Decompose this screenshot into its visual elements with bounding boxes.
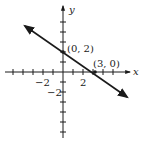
point-label-0-2: (0, 2) bbox=[67, 43, 94, 54]
point-label-3-0: (3, 0) bbox=[93, 58, 120, 69]
x-axis: x −2 2 bbox=[5, 66, 139, 88]
point-0-2 bbox=[61, 50, 65, 54]
point-3-0 bbox=[93, 70, 97, 74]
y-axis-label: y bbox=[68, 4, 75, 15]
y-tick-label-neg2: −2 bbox=[47, 87, 62, 98]
x-tick-label-2: 2 bbox=[80, 77, 86, 88]
y-axis: y −2 bbox=[47, 4, 75, 138]
x-axis-label: x bbox=[133, 66, 139, 77]
coordinate-graph: x −2 2 y −2 (0, 2) (3, 0) bbox=[0, 0, 141, 143]
